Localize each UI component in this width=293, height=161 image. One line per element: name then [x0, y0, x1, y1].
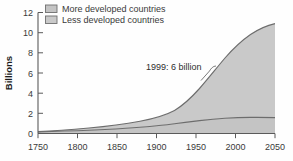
x-axis — [38, 134, 275, 139]
y-axis-title: Billions — [3, 56, 14, 90]
legend-label-more-developed-countries: More developed countries — [62, 4, 166, 14]
x-tick-label-2050: 2050 — [265, 142, 285, 152]
y-tick-label-6: 6 — [28, 69, 33, 79]
x-tick-label-1750: 1750 — [28, 142, 48, 152]
x-tick-label-2000: 2000 — [225, 142, 245, 152]
legend: More developed countries Less developed … — [46, 4, 167, 25]
legend-label-less-developed-countries: Less developed countries — [62, 15, 165, 25]
x-tick-label-1950: 1950 — [186, 142, 206, 152]
y-tick-label-12: 12 — [23, 8, 33, 18]
x-tick-label-1850: 1850 — [107, 142, 127, 152]
y-tick-label-10: 10 — [23, 28, 33, 38]
legend-swatch-more-developed-countries — [46, 5, 58, 13]
y-axis — [38, 13, 43, 134]
x-tick-label-1800: 1800 — [67, 142, 87, 152]
annotation-label: 1999: 6 billion — [146, 62, 202, 72]
y-tick-label-0: 0 — [28, 129, 33, 139]
population-area-chart: 12 10 8 6 4 2 0 1750 1800 1850 1900 1950… — [0, 0, 293, 161]
y-tick-label-2: 2 — [28, 109, 33, 119]
x-tick-label-1900: 1900 — [146, 142, 166, 152]
y-tick-label-4: 4 — [28, 89, 33, 99]
legend-swatch-less-developed-countries — [46, 16, 58, 24]
annotation-1999-6-billion: 1999: 6 billion — [146, 62, 216, 81]
area-less-developed-countries — [38, 24, 275, 132]
y-tick-label-8: 8 — [28, 48, 33, 58]
chart-canvas: 12 10 8 6 4 2 0 1750 1800 1850 1900 1950… — [0, 0, 293, 161]
